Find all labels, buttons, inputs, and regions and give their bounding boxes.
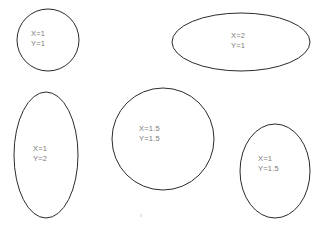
- stray-speck: [140, 214, 142, 217]
- shapes-layer: [0, 0, 319, 229]
- shape-label-bottom-left: X=1Y=2: [33, 144, 47, 163]
- shape-label-x: X=1: [31, 29, 45, 38]
- shape-outline-top-left[interactable]: [17, 9, 79, 71]
- shape-label-top-left: X=1Y=1: [31, 29, 45, 48]
- shape-label-top-right: X=2Y=1: [231, 31, 245, 50]
- shape-label-x: X=1: [33, 144, 47, 153]
- diagram-canvas: X=1Y=1 X=2Y=1 X=1Y=2 X=1.5Y=1.5 X=1Y=1.5: [0, 0, 319, 229]
- shape-label-y: Y=2: [33, 154, 47, 163]
- shape-label-x: X=1: [258, 154, 272, 163]
- shape-label-x: X=1.5: [139, 124, 160, 133]
- shape-outline-center[interactable]: [112, 88, 214, 190]
- shape-label-y: Y=1.5: [139, 134, 160, 143]
- shape-label-y: Y=1: [231, 41, 245, 50]
- shape-label-bottom-right: X=1Y=1.5: [258, 154, 279, 173]
- shape-label-y: Y=1.5: [258, 164, 279, 173]
- shape-label-center: X=1.5Y=1.5: [139, 124, 160, 143]
- shape-label-y: Y=1: [31, 39, 45, 48]
- shape-label-x: X=2: [231, 31, 245, 40]
